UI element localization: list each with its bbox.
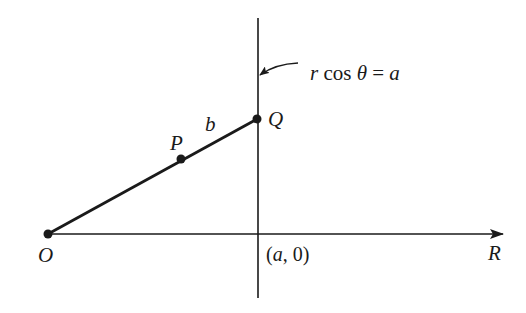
eq-theta: θ xyxy=(357,61,367,85)
point-o-dot xyxy=(44,230,53,239)
label-b: b xyxy=(205,112,216,136)
intercept-a: a xyxy=(273,243,283,265)
intercept-rest: , 0) xyxy=(283,243,310,266)
label-r-axis: R xyxy=(487,241,501,265)
label-line-equation: r cos θ = a xyxy=(310,61,400,85)
label-q: Q xyxy=(268,107,283,131)
eq-a: a xyxy=(389,61,400,85)
label-p: P xyxy=(169,131,183,155)
label-o: O xyxy=(38,243,53,267)
eq-equals: = xyxy=(367,61,389,85)
label-intercept: (a, 0) xyxy=(266,243,309,266)
polar-line-diagram: O P b Q R (a, 0) r cos θ = a xyxy=(0,0,526,313)
segment-oq xyxy=(48,119,257,234)
eq-cos: cos xyxy=(318,61,357,85)
pointer-arrow-icon xyxy=(260,63,298,75)
point-q-dot xyxy=(253,115,262,124)
point-p-dot xyxy=(177,155,186,164)
